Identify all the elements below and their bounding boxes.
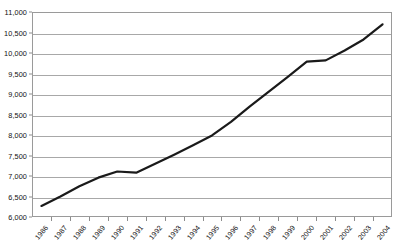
data-line bbox=[41, 24, 382, 206]
series-layer bbox=[0, 0, 407, 251]
line-chart: 6,0006,5007,0007,5008,0008,5009,0009,500… bbox=[0, 0, 407, 251]
